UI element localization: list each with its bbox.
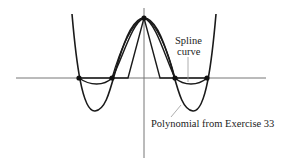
data-point	[141, 15, 146, 20]
data-point	[109, 75, 114, 80]
polynomial-leader-line	[171, 105, 181, 117]
polynomial-label: Polynomial from Exercise 33	[151, 118, 274, 129]
data-point	[204, 75, 209, 80]
spline-diagram: Spline curve Polynomial from Exercise 33	[0, 0, 289, 167]
data-point	[172, 75, 177, 80]
data-point	[76, 75, 81, 80]
spline-label-line2: curve	[177, 46, 201, 57]
spline-label-line1: Spline	[175, 35, 202, 46]
